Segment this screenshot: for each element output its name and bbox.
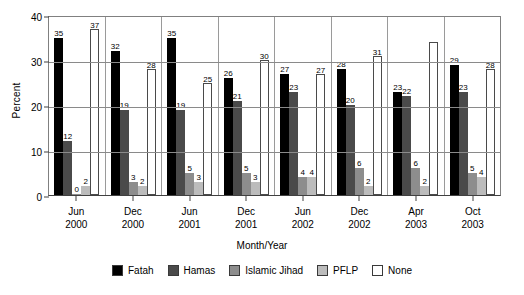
- bar-value-label: 0: [75, 185, 79, 194]
- bar-islamic-jihad[interactable]: 4: [298, 177, 307, 195]
- bar-group: 35195325: [162, 17, 219, 195]
- bar-fatah[interactable]: 29: [450, 65, 459, 196]
- bar-fatah[interactable]: 32: [111, 51, 120, 195]
- bar-value-label: 2: [140, 177, 144, 186]
- bar-value-label: 5: [188, 164, 192, 173]
- bar-group: 28206231: [332, 17, 389, 195]
- legend-label: PFLP: [333, 265, 358, 276]
- x-axis-tick-label-line: 2000: [105, 218, 162, 231]
- gridline: [49, 107, 500, 108]
- y-axis-tick-mark: [44, 152, 49, 153]
- bar-none[interactable]: [429, 42, 438, 195]
- x-axis-tick-label-line: Jun: [275, 205, 332, 218]
- bar-pflp[interactable]: 4: [307, 177, 316, 195]
- bar-pflp[interactable]: 2: [81, 186, 90, 195]
- bar-fatah[interactable]: 26: [224, 78, 233, 195]
- bar-islamic-jihad[interactable]: 0: [72, 194, 81, 195]
- bar-value-label: 6: [357, 159, 361, 168]
- bar-value-label: 22: [402, 87, 411, 96]
- bar-islamic-jihad[interactable]: 5: [242, 173, 251, 196]
- y-axis-title: Percent: [11, 61, 22, 141]
- bar-value-label: 5: [244, 164, 248, 173]
- bar-islamic-jihad[interactable]: 6: [411, 168, 420, 195]
- bar-none[interactable]: 28: [147, 69, 156, 195]
- legend-swatch: [168, 265, 179, 276]
- bar-group: 27234427: [275, 17, 332, 195]
- x-axis-tick-label-line: Dec: [331, 205, 388, 218]
- bar-pflp[interactable]: 2: [138, 186, 147, 195]
- x-axis-tick-label-line: Dec: [105, 205, 162, 218]
- bar-hamas[interactable]: 12: [63, 141, 72, 195]
- x-axis-tick-label: Oct2003: [444, 196, 501, 236]
- bar-group: 32193228: [106, 17, 163, 195]
- bar-islamic-jihad[interactable]: 5: [185, 173, 194, 196]
- bar-group: 232262: [388, 17, 445, 195]
- bar-value-label: 35: [54, 29, 63, 38]
- x-axis-tick-label: Apr2003: [388, 196, 445, 236]
- x-axis-tick-labels: Jun2000Dec2000Jun2001Dec2001Jun2002Dec20…: [48, 196, 501, 236]
- legend-label: Fatah: [128, 265, 154, 276]
- legend-item-hamas[interactable]: Hamas: [168, 265, 216, 276]
- x-axis-tick-label: Jun2000: [48, 196, 105, 236]
- gridline: [49, 62, 500, 63]
- legend-item-islamic-jihad[interactable]: Islamic Jihad: [229, 265, 303, 276]
- bar-islamic-jihad[interactable]: 5: [468, 173, 477, 196]
- bar-group: 26215330: [219, 17, 276, 195]
- legend-item-pflp[interactable]: PFLP: [317, 265, 358, 276]
- legend-swatch: [372, 265, 383, 276]
- x-axis-title: Month/Year: [0, 240, 524, 251]
- x-axis-tick-label-line: Jun: [161, 205, 218, 218]
- bar-value-label: 35: [167, 29, 176, 38]
- x-axis-tick-label: Jun2002: [275, 196, 332, 236]
- x-axis-tick-label: Dec2000: [105, 196, 162, 236]
- bar-none[interactable]: 27: [316, 74, 325, 196]
- bar-none[interactable]: 30: [260, 60, 269, 195]
- bar-hamas[interactable]: 21: [233, 101, 242, 196]
- y-axis-tick-mark: [44, 17, 49, 18]
- bar-value-label: 2: [84, 177, 88, 186]
- bar-value-label: 3: [253, 173, 257, 182]
- bar-islamic-jihad[interactable]: 3: [129, 182, 138, 196]
- bar-hamas[interactable]: 20: [346, 105, 355, 195]
- bar-value-label: 5: [470, 164, 474, 173]
- bar-fatah[interactable]: 28: [337, 69, 346, 195]
- x-axis-tick-mark: [246, 196, 247, 201]
- bar-pflp[interactable]: 4: [477, 177, 486, 195]
- x-axis-tick-label-line: 2001: [161, 218, 218, 231]
- x-axis-tick-label-line: 2000: [48, 218, 105, 231]
- bar-hamas[interactable]: 22: [402, 96, 411, 195]
- x-axis-tick-label: Dec2001: [218, 196, 275, 236]
- x-axis-tick-label: Dec2002: [331, 196, 388, 236]
- bar-pflp[interactable]: 2: [420, 186, 429, 195]
- bar-value-label: 23: [289, 83, 298, 92]
- bar-group: 29235428: [445, 17, 501, 195]
- bar-islamic-jihad[interactable]: 6: [355, 168, 364, 195]
- legend-item-fatah[interactable]: Fatah: [112, 265, 154, 276]
- bar-none[interactable]: 37: [90, 29, 99, 196]
- legend-swatch: [317, 265, 328, 276]
- x-axis-tick-label: Jun2001: [161, 196, 218, 236]
- x-axis-tick-label-line: Apr: [388, 205, 445, 218]
- bar-value-label: 23: [393, 83, 402, 92]
- bar-value-label: 23: [459, 83, 468, 92]
- y-axis-tick-mark: [44, 107, 49, 108]
- bar-value-label: 4: [310, 168, 314, 177]
- bar-value-label: 29: [450, 56, 459, 65]
- bar-value-label: 19: [176, 101, 185, 110]
- bar-value-label: 19: [120, 101, 129, 110]
- bar-pflp[interactable]: 3: [251, 182, 260, 196]
- plot-area: 3512023732193228351953252621533027234427…: [48, 16, 501, 196]
- bar-pflp[interactable]: 2: [364, 186, 373, 195]
- x-axis-tick-mark: [189, 196, 190, 201]
- bar-pflp[interactable]: 3: [194, 182, 203, 196]
- bar-none[interactable]: 28: [486, 69, 495, 195]
- legend-label: None: [388, 265, 412, 276]
- bar-none[interactable]: 31: [373, 56, 382, 196]
- legend-item-none[interactable]: None: [372, 265, 412, 276]
- bar-fatah[interactable]: 27: [280, 74, 289, 196]
- x-axis-tick-mark: [416, 196, 417, 201]
- legend-swatch: [112, 265, 123, 276]
- gridline: [49, 152, 500, 153]
- x-axis-tick-label-line: 2001: [218, 218, 275, 231]
- bar-none[interactable]: 25: [203, 83, 212, 196]
